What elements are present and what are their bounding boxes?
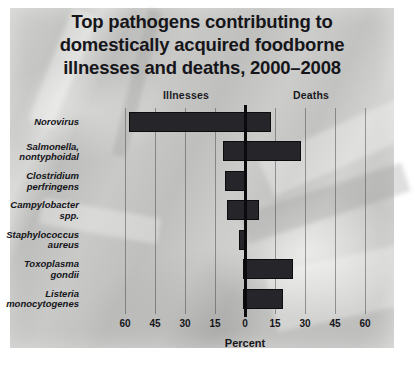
category-label-line: nontyphoidal <box>0 152 79 163</box>
category-label: Norovirus <box>0 117 79 128</box>
category-label-line: Norovirus <box>0 117 79 128</box>
category-label: Staphylococcusaureus <box>0 230 79 251</box>
x-axis-tick-5: 15 <box>261 318 289 329</box>
x-axis-tick-2: 30 <box>171 318 199 329</box>
category-label: Campylobacterspp. <box>0 200 79 221</box>
bar-norovirus <box>129 112 271 132</box>
chart-title-line-1: Top pathogens contributing to <box>16 10 388 33</box>
category-label-line: monocytogenes <box>0 299 79 310</box>
category-label: Clostridiumperfringens <box>0 171 79 192</box>
chart-title: Top pathogens contributing to domestical… <box>16 10 388 79</box>
column-header-deaths: Deaths <box>278 89 344 101</box>
plot-area: NorovirusSalmonella,nontyphoidalClostrid… <box>125 108 365 314</box>
grid-line <box>365 108 366 314</box>
x-axis-tick-8: 60 <box>351 318 379 329</box>
x-axis-tick-0: 60 <box>111 318 139 329</box>
column-header-illnesses: Illnesses <box>150 89 222 101</box>
category-label: Listeriamonocytogenes <box>0 289 79 310</box>
x-axis-tick-3: 15 <box>201 318 229 329</box>
chart-title-line-2: domestically acquired foodborne <box>16 33 388 56</box>
bar-listeria-monocytogenes <box>243 289 283 309</box>
zero-axis-line <box>244 105 247 317</box>
category-label-line: gondii <box>0 270 79 281</box>
chart-title-line-3: illnesses and deaths, 2000–2008 <box>16 56 388 79</box>
category-label-line: aureus <box>0 240 79 251</box>
x-axis-tick-6: 30 <box>291 318 319 329</box>
bar-toxoplasma-gondii <box>243 259 293 279</box>
x-axis-tick-4: 0 <box>231 318 259 329</box>
category-label: Salmonella,nontyphoidal <box>0 142 79 163</box>
x-axis-tick-7: 45 <box>321 318 349 329</box>
category-label: Toxoplasmagondii <box>0 259 79 280</box>
category-label-line: spp. <box>0 211 79 222</box>
x-axis-tick-1: 45 <box>141 318 169 329</box>
x-axis-title: Percent <box>185 337 305 349</box>
category-label-line: perfringens <box>0 182 79 193</box>
bar-salmonella-nontyphoidal <box>223 141 301 161</box>
category-label-line: Clostridium <box>0 171 79 182</box>
